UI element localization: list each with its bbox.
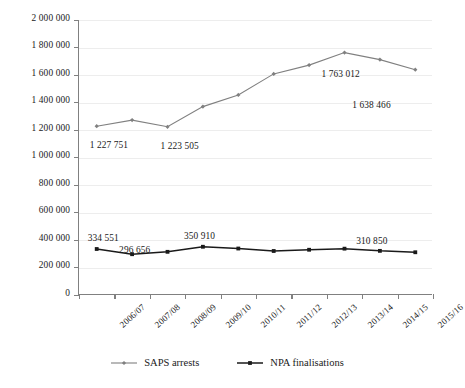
x-axis-tick-label: 2014/15 [401,302,430,330]
series-point-marker [201,245,205,249]
series-point-marker [165,125,169,129]
legend-label: NPA finalisations [270,357,343,368]
data-point-label: 1 763 012 [322,69,360,79]
series-point-marker [343,247,347,251]
series-point-marker [307,63,311,67]
x-axis-tick-label: 2009/10 [224,302,253,330]
data-point-label: 1 223 505 [161,141,199,151]
series-point-marker [166,250,170,254]
x-axis-tick-label: 2015/16 [436,302,465,330]
x-axis-tick-label: 2008/09 [188,302,217,330]
series-point-marker [272,249,276,253]
series-line [97,53,416,127]
y-axis-tick-label: 1 800 000 [32,40,70,50]
legend-item[interactable]: SAPS arrests [111,357,199,368]
series-point-marker [342,50,346,54]
y-axis-tick-label: 200 000 [39,260,70,270]
series-point-marker [413,250,417,254]
series-point-marker [201,104,205,108]
y-axis-tick-label: 600 000 [39,205,70,215]
x-tick-mark [433,294,434,299]
x-axis-tick-label: 2010/11 [259,302,288,329]
series-point-marker [95,124,99,128]
y-axis-tick-label: 1 200 000 [32,123,70,133]
x-axis-tick-label: 2007/08 [153,302,182,330]
series-point-marker [130,118,134,122]
data-point-label: 350 910 [184,231,215,241]
series-point-marker [378,249,382,253]
y-axis-tick-label: 800 000 [39,178,70,188]
legend-label: SAPS arrests [144,357,199,368]
y-axis-tick-label: 1 400 000 [32,95,70,105]
x-axis-tick-label: 2006/07 [117,302,146,330]
series-point-marker [307,248,311,252]
data-point-label: 296 656 [119,245,150,255]
legend-diamond-marker-icon [111,358,137,368]
data-point-label: 1 227 751 [90,140,128,150]
legend-item[interactable]: NPA finalisations [237,357,343,368]
x-axis-tick-label: 2012/13 [330,302,359,330]
legend-square-marker-icon [237,358,263,368]
y-axis-tick-label: 1 600 000 [32,68,70,78]
series-point-marker [378,57,382,61]
x-axis-tick-label: 2011/12 [294,302,323,329]
y-axis-tick-label: 400 000 [39,233,70,243]
series-point-marker [413,68,417,72]
data-point-label: 310 850 [356,236,387,246]
y-axis-tick-label: 1 000 000 [32,150,70,160]
data-point-label: 1 638 466 [352,100,390,110]
data-point-label: 334 551 [88,233,119,243]
y-axis-tick-label: 0 [65,288,70,298]
series-point-marker [236,247,240,251]
y-axis-tick-label: 2 000 000 [32,13,70,23]
x-axis-tick-label: 2013/14 [365,302,394,330]
series-point-marker [95,247,99,251]
chart-legend: SAPS arrestsNPA finalisations [0,357,455,368]
